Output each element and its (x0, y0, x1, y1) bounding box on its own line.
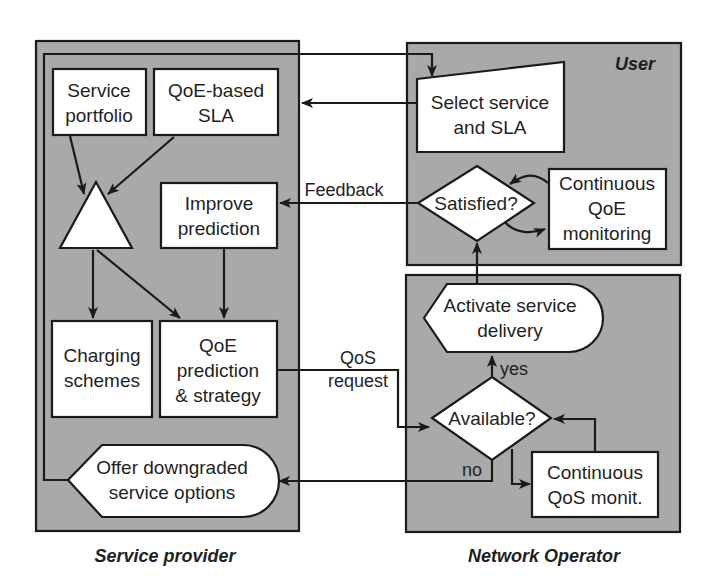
svg-text:monitoring: monitoring (563, 223, 652, 244)
svg-text:QoE-based: QoE-based (168, 80, 264, 101)
qos-request-label-line1: QoS (340, 348, 376, 368)
feedback-label: Feedback (304, 180, 384, 200)
svg-text:and SLA: and SLA (454, 117, 527, 138)
svg-text:Charging: Charging (63, 345, 140, 366)
svg-text:Satisfied?: Satisfied? (434, 193, 517, 214)
qoe-flow-diagram: User Service provider Network Operator S… (0, 0, 705, 585)
svg-text:prediction: prediction (177, 360, 259, 381)
continuous-qoe-monitoring-node: Continuous QoE monitoring (549, 169, 666, 249)
continuous-qos-monitoring-node: Continuous QoS monit. (532, 452, 658, 517)
svg-text:QoE: QoE (588, 198, 626, 219)
svg-text:Select service: Select service (431, 92, 549, 113)
qoe-prediction-strategy-node: QoE prediction & strategy (160, 321, 277, 417)
svg-text:Offer downgraded: Offer downgraded (96, 457, 248, 478)
yes-label: yes (500, 359, 528, 379)
svg-text:Available?: Available? (448, 408, 535, 429)
service-portfolio-node: Service portfolio (53, 69, 146, 135)
svg-text:portfolio: portfolio (65, 105, 133, 126)
network-operator-region-title: Network Operator (468, 546, 621, 566)
svg-text:& strategy: & strategy (175, 385, 261, 406)
charging-schemes-node: Charging schemes (52, 321, 152, 417)
no-label: no (462, 460, 482, 480)
svg-text:delivery: delivery (477, 320, 543, 341)
improve-prediction-node: Improve prediction (161, 183, 277, 248)
svg-text:Improve: Improve (185, 193, 254, 214)
svg-text:Continuous: Continuous (547, 462, 643, 483)
offer-downgraded-node: Offer downgraded service options (68, 445, 279, 517)
svg-text:prediction: prediction (178, 218, 260, 239)
svg-text:schemes: schemes (64, 370, 140, 391)
svg-text:Continuous: Continuous (559, 173, 655, 194)
user-region-title: User (615, 54, 656, 74)
select-service-node: Select service and SLA (417, 62, 564, 152)
activate-service-delivery-node: Activate service delivery (424, 284, 603, 352)
svg-text:QoE: QoE (199, 335, 237, 356)
qos-request-label-line2: request (328, 371, 388, 391)
svg-text:Activate service: Activate service (443, 295, 576, 316)
svg-text:QoS monit.: QoS monit. (547, 487, 642, 508)
svg-text:Service: Service (67, 80, 130, 101)
svg-text:SLA: SLA (198, 105, 234, 126)
svg-text:service options: service options (109, 482, 236, 503)
qoe-sla-node: QoE-based SLA (154, 69, 278, 135)
service-provider-region-title: Service provider (94, 546, 236, 566)
